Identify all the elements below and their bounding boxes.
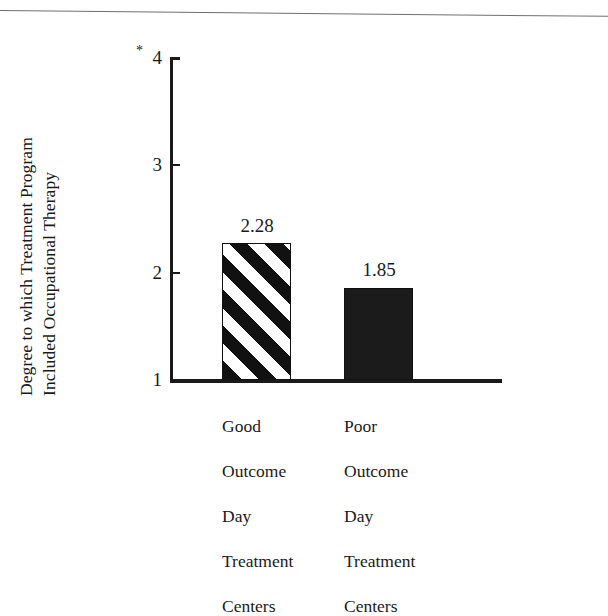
y-tick-mark-4 — [170, 57, 180, 60]
x-category-label-poor-outcome: Poor Outcome Day Treatment Centers — [344, 392, 415, 616]
y-axis-title: Degree to which Treatment Program Includ… — [0, 0, 100, 420]
x-category-label-good-outcome: Good Outcome Day Treatment Centers — [222, 392, 293, 616]
bar-value-label-good-outcome: 2.28 — [212, 216, 302, 235]
y-tick-mark-2 — [170, 272, 180, 274]
y-axis-title-line-2-text: Included Occupational Therapy — [41, 172, 59, 396]
y-axis-line — [170, 57, 173, 382]
y-tick-label-1: 1 — [122, 370, 162, 389]
y-tick-label-2: 2 — [122, 263, 162, 282]
x-category-line: Outcome — [344, 460, 415, 483]
x-category-line: Poor — [344, 415, 415, 438]
x-axis-line — [170, 379, 502, 383]
y-tick-label-3: 3 — [122, 155, 162, 174]
x-category-line: Treatment — [344, 550, 415, 573]
bar-value-label-poor-outcome: 1.85 — [334, 260, 424, 279]
x-category-line: Centers — [344, 595, 415, 616]
bar-poor-outcome[interactable] — [344, 288, 413, 380]
x-category-line: Day — [344, 505, 415, 528]
y-tick-label-4: 4 — [122, 48, 162, 67]
x-category-line: Centers — [222, 595, 293, 616]
x-category-line: Day — [222, 505, 293, 528]
y-axis-title-line-1-text: Degree to which Treatment Program — [18, 137, 36, 396]
x-category-line: Good — [222, 415, 293, 438]
bar-good-outcome[interactable] — [222, 243, 291, 380]
x-category-line: Treatment — [222, 550, 293, 573]
x-category-line: Outcome — [222, 460, 293, 483]
y-tick-mark-3 — [170, 164, 180, 166]
